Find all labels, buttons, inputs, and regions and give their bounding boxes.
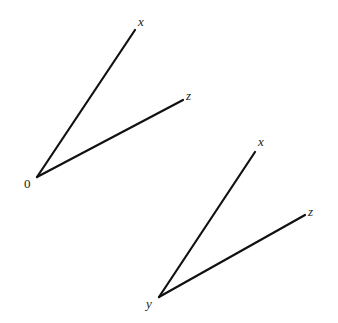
axis-label-z: z [307, 204, 313, 219]
axis-label-z: z [185, 88, 191, 103]
axis-line-x [159, 152, 255, 297]
axes-diagram: xz0xzy [0, 0, 338, 323]
axis-line-z [159, 215, 305, 297]
axis-label-x: x [257, 134, 264, 149]
axis-line-x [37, 30, 135, 177]
axis-label-x: x [137, 14, 144, 29]
figure-1: xz0 [24, 14, 191, 191]
diagram-canvas: xz0xzy [0, 0, 338, 323]
figure-2: xzy [144, 134, 313, 311]
figures-group: xz0xzy [24, 14, 313, 311]
origin-label: y [144, 296, 152, 311]
axis-line-z [37, 100, 183, 177]
origin-label: 0 [24, 176, 31, 191]
